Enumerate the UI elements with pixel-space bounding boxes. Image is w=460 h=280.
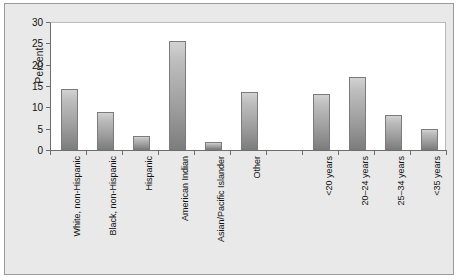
bar-slot — [231, 23, 267, 150]
x-axis-tick-mark — [194, 150, 195, 155]
bar-slot — [159, 23, 195, 150]
y-axis-tick-label: 5 — [17, 123, 43, 134]
x-axis-category-label: Black, non-Hispanic — [108, 156, 118, 236]
y-axis-tick-label: 30 — [17, 17, 43, 28]
bar[interactable] — [421, 129, 438, 150]
x-axis-category-label: <20 years — [324, 156, 334, 196]
bar-slot — [339, 23, 375, 150]
y-axis-tick-mark — [46, 107, 50, 108]
x-axis-tick-mark — [446, 150, 447, 155]
x-axis-category-label: White, non-Hispanic — [72, 156, 82, 237]
y-axis-tick-label: 25 — [17, 38, 43, 49]
x-axis-category-label: Asian/Pacific Islander — [216, 156, 226, 242]
y-axis-tick-mark — [46, 150, 50, 151]
bar[interactable] — [313, 94, 330, 150]
x-axis-category-label: 25–34 years — [396, 156, 406, 206]
x-axis-tick-mark — [50, 150, 51, 155]
y-axis-tick-label: 20 — [17, 59, 43, 70]
y-axis-tick-label: 10 — [17, 102, 43, 113]
x-axis-tick-mark — [266, 150, 267, 155]
bar[interactable] — [61, 89, 78, 150]
bar[interactable] — [169, 41, 186, 150]
x-axis-tick-mark — [86, 150, 87, 155]
x-axis-tick-mark — [230, 150, 231, 155]
x-axis-tick-mark — [158, 150, 159, 155]
y-axis-tick-label: 15 — [17, 81, 43, 92]
bar[interactable] — [205, 142, 222, 150]
bar-slot — [195, 23, 231, 150]
bar-slot — [411, 23, 447, 150]
y-axis-tick-label: 0 — [17, 145, 43, 156]
plot-area — [50, 22, 446, 150]
x-axis-category-label: Other — [252, 156, 262, 179]
bar[interactable] — [133, 136, 150, 151]
x-axis-tick-mark — [338, 150, 339, 155]
x-axis-tick-mark — [374, 150, 375, 155]
x-axis-tick-mark — [302, 150, 303, 155]
bar-slot — [87, 23, 123, 150]
x-axis-category-label: 20–24 years — [360, 156, 370, 206]
x-axis-category-label: <35 years — [432, 156, 442, 196]
y-axis-tick-labels: 051015202530 — [17, 22, 43, 150]
bar[interactable] — [241, 92, 258, 150]
chart-panel: Percent 051015202530 White, non-Hispanic… — [4, 3, 454, 275]
bar[interactable] — [349, 77, 366, 150]
bar-slot — [375, 23, 411, 150]
bar-slot — [51, 23, 87, 150]
y-axis-tick-mark — [46, 65, 50, 66]
y-axis-tick-mark — [46, 22, 50, 23]
x-axis-line — [50, 150, 447, 151]
bar[interactable] — [97, 112, 114, 150]
x-axis-category-label: Hispanic — [144, 156, 154, 191]
x-axis-tick-mark — [410, 150, 411, 155]
bar-slot — [303, 23, 339, 150]
x-axis-tick-mark — [122, 150, 123, 155]
bar[interactable] — [385, 115, 402, 150]
y-axis-tick-mark — [46, 129, 50, 130]
x-axis-category-label: American Indian — [180, 156, 190, 221]
y-axis-tick-mark — [46, 86, 50, 87]
bar-slot — [123, 23, 159, 150]
bars-container — [51, 23, 445, 150]
y-axis-tick-mark — [46, 43, 50, 44]
